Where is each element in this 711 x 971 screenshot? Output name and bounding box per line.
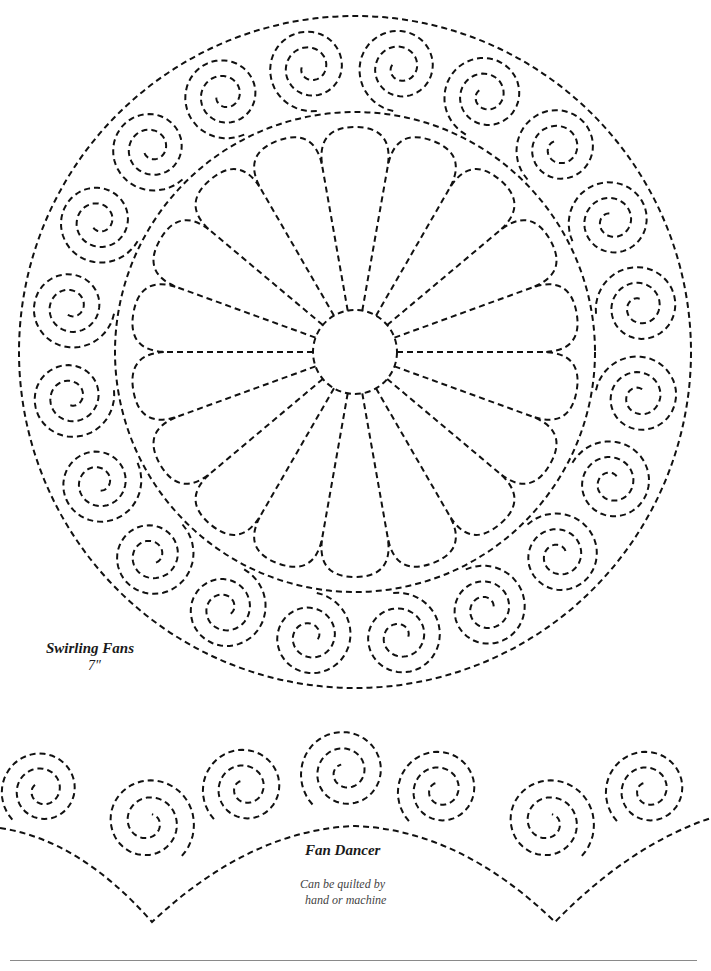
outer-circle — [19, 16, 691, 688]
ring-swirl — [596, 357, 676, 430]
fan-petal — [376, 169, 514, 316]
fan-petal — [376, 388, 456, 566]
center-hub-circle — [313, 310, 397, 394]
swirling-fans-medallion — [19, 16, 691, 688]
fan-petal — [254, 393, 348, 566]
ring-swirl — [117, 525, 193, 594]
ring-swirl — [528, 514, 597, 590]
ring-swirl — [277, 593, 350, 673]
ring-swirl — [113, 114, 182, 190]
border-swirl — [111, 780, 194, 856]
ring-swirl — [63, 452, 141, 522]
ring-swirl — [517, 110, 593, 179]
ring-swirl — [445, 58, 520, 135]
quilting-pattern-canvas — [0, 0, 711, 971]
ring-swirl — [35, 365, 115, 437]
fan-petal — [132, 284, 313, 352]
page-footer-rule — [10, 960, 697, 961]
swirling-fans-size: 7″ — [88, 658, 101, 674]
border-swirl — [301, 732, 381, 804]
fan-dancer-title: Fan Dancer — [305, 842, 380, 859]
border-swirl — [606, 752, 682, 821]
fan-petal — [394, 284, 577, 352]
ring-swirl — [360, 31, 433, 111]
ring-swirl — [572, 442, 649, 517]
fan-petal — [196, 169, 323, 325]
ring-swirl — [34, 274, 114, 347]
fan-dancer-note-line1: Can be quilted by — [300, 877, 385, 892]
border-swirl — [398, 752, 474, 821]
ring-swirl — [270, 32, 342, 112]
fan-petal — [394, 366, 556, 483]
ring-swirl — [569, 182, 647, 252]
border-swirl — [511, 780, 594, 856]
ring-swirl — [596, 267, 676, 339]
ring-swirl — [61, 188, 138, 263]
swirling-fans-title: Swirling Fans — [46, 640, 134, 657]
fan-petal — [132, 352, 315, 420]
fan-petal — [362, 137, 456, 310]
fan-dancer-note-line2: hand or machine — [305, 893, 386, 908]
fan-petal — [387, 379, 514, 535]
fan-petal — [254, 137, 334, 315]
ring-swirl — [368, 593, 440, 673]
fan-petal — [397, 352, 578, 420]
ring-swirl — [455, 566, 525, 644]
fan-petal — [153, 220, 315, 337]
ring-swirl — [185, 60, 255, 138]
ring-swirl — [191, 569, 266, 646]
border-swirl — [203, 750, 279, 819]
fan-petal — [196, 388, 334, 535]
border-swirl — [2, 754, 75, 820]
